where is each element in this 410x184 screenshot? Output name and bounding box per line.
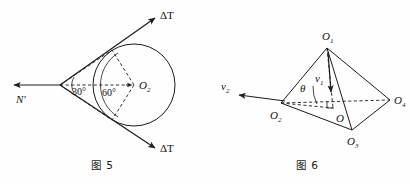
label-o2: O2 <box>270 109 282 124</box>
label-o3: O3 <box>347 135 359 150</box>
label-v1: v1 <box>315 72 323 87</box>
label-angle-30: 30° <box>72 86 86 97</box>
label-v2: v2 <box>221 80 230 95</box>
label-n-prime: N′ <box>15 93 26 105</box>
figure-6-panel: O1 O2 O3 O4 O v1 v2 θ 图 6 <box>205 0 410 184</box>
label-theta: θ <box>300 82 306 94</box>
angle-arc-60 <box>100 53 118 117</box>
label-delta-t-lower: ΔT <box>160 142 174 154</box>
vector-v2-line <box>239 95 285 101</box>
label-angle-60: 60° <box>102 87 116 98</box>
dashed-edge-o2-o4 <box>281 100 390 103</box>
label-o1: O1 <box>322 30 333 45</box>
angle-arc-theta <box>313 86 317 104</box>
label-o2-center: O2 <box>139 79 151 94</box>
figure-sheet: N′ ΔT ΔT O2 30° 60° 图 5 <box>0 0 410 184</box>
label-o4: O4 <box>394 94 406 109</box>
edge-o1-o2 <box>281 48 327 103</box>
edge-o1-o4 <box>327 48 390 100</box>
figure-5-panel: N′ ΔT ΔT O2 30° 60° 图 5 <box>0 0 205 184</box>
figure-6-caption: 图 6 <box>205 157 410 172</box>
figure-5-caption: 图 5 <box>0 157 205 172</box>
label-o-center: O <box>336 112 344 124</box>
label-delta-t-upper: ΔT <box>160 9 174 21</box>
edge-o3-o4 <box>352 100 390 130</box>
